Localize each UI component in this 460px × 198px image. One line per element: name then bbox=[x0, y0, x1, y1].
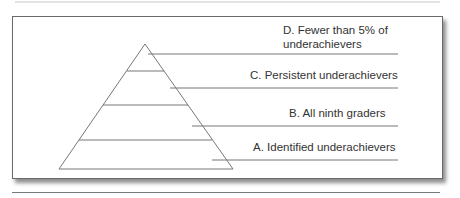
bottom-divider bbox=[12, 192, 440, 193]
label-d-line2: underachievers bbox=[283, 37, 388, 51]
label-b: B. All ninth graders bbox=[289, 106, 386, 120]
pyramid-diagram bbox=[0, 0, 460, 198]
pyramid-outline bbox=[59, 44, 233, 169]
label-c: C. Persistent underachievers bbox=[250, 68, 398, 82]
label-d-line1: D. Fewer than 5% of bbox=[283, 23, 388, 37]
label-a: A. Identified underachievers bbox=[253, 140, 396, 154]
label-d: D. Fewer than 5% of underachievers bbox=[283, 23, 388, 51]
